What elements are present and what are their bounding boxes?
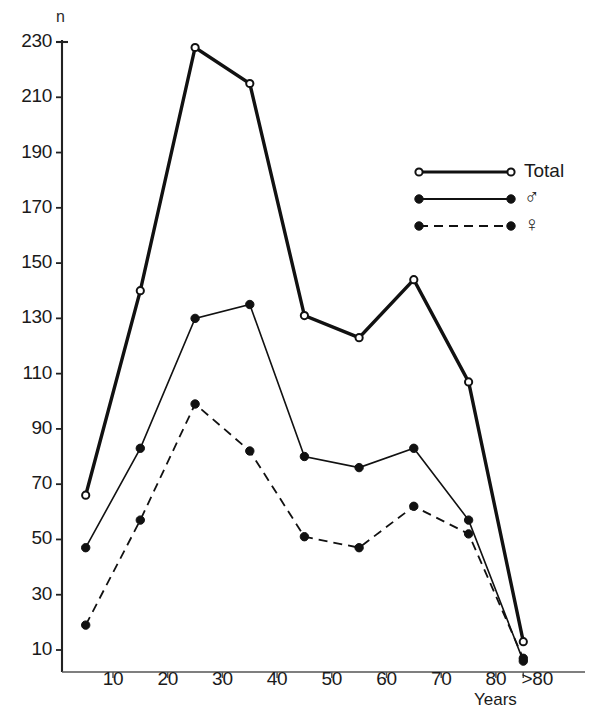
legend-marker-0-0 — [415, 168, 422, 175]
legend-marker-1-0 — [415, 195, 423, 203]
legend-label-female: ♀ — [524, 213, 540, 234]
legend-marker-1-1 — [507, 195, 515, 203]
legend-label-male: ♂ — [524, 186, 540, 207]
legend-lines — [0, 0, 589, 725]
chart-figure: n 2302101901701501301109070503010 102030… — [0, 0, 589, 725]
legend-marker-2-1 — [507, 222, 515, 230]
legend-marker-2-0 — [415, 222, 423, 230]
legend-label-total: Total — [524, 160, 564, 182]
legend-marker-0-1 — [507, 168, 514, 175]
